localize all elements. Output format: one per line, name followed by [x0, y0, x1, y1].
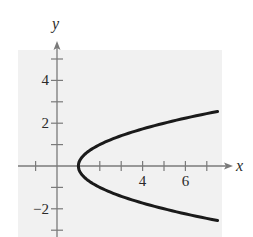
- parabola-chart: 4642−2 x y: [0, 0, 253, 237]
- y-axis-label: y: [50, 15, 60, 33]
- y-tick-label: −2: [33, 201, 49, 217]
- y-tick-label: 2: [42, 115, 50, 131]
- y-tick-label: 4: [42, 72, 50, 88]
- x-tick-label: 6: [182, 173, 190, 189]
- x-axis-label: x: [235, 157, 243, 174]
- x-tick-label: 4: [139, 173, 147, 189]
